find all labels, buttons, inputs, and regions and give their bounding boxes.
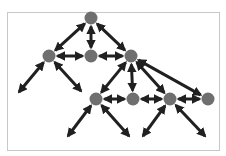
node-l2b: [85, 50, 98, 63]
bidirectional-arrow-l2c-l3b: [131, 64, 132, 90]
node-l3a: [90, 93, 103, 106]
diagram-frame: [8, 13, 220, 151]
node-l3d: [202, 93, 215, 106]
node-root: [85, 12, 98, 25]
node-l2c: [125, 50, 138, 63]
node-l2a: [43, 50, 56, 63]
node-l3c: [164, 93, 177, 106]
node-l3b: [127, 93, 140, 106]
network-diagram: [0, 0, 226, 156]
